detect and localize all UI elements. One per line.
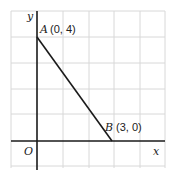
point-b-name: B xyxy=(104,121,113,134)
point-a-coords: (0, 4) xyxy=(50,23,76,35)
origin-label: O xyxy=(24,145,33,158)
point-a-name: A xyxy=(39,23,48,36)
grid xyxy=(11,11,165,168)
point-b-coords: (3, 0) xyxy=(116,121,142,133)
coordinate-diagram: y x O A (0, 4) B (3, 0) xyxy=(0,0,173,181)
x-axis-label: x xyxy=(153,145,160,158)
y-axis-label: y xyxy=(26,10,34,23)
